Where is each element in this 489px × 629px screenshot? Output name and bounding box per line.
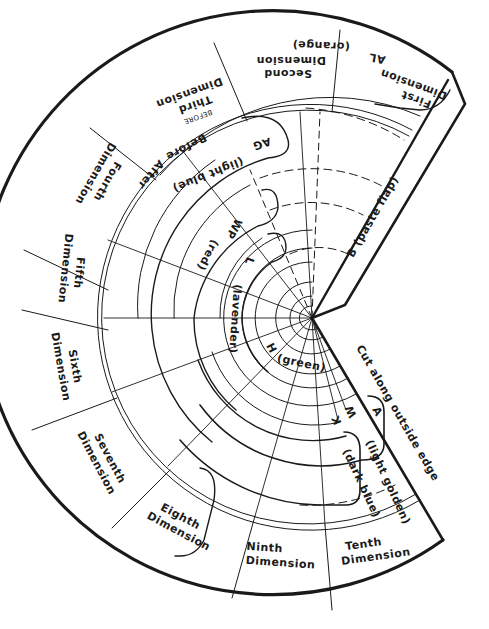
lane-w-code: W [342, 403, 359, 420]
lane-l-color: (lavender) [226, 284, 244, 354]
lane-k-code: K [329, 413, 345, 427]
lane-al-color: (orange) [292, 38, 350, 53]
lane-al-code: AL [368, 51, 387, 67]
lane-l-code: L [242, 255, 257, 267]
lane-wp-color: (red) [194, 237, 221, 273]
cone-template-diagram: First Dimension AL (orange) Second Dimen… [0, 0, 489, 629]
second-dimension-line2: Dimension [256, 54, 326, 67]
ninth-dimension-line1: Ninth [246, 540, 283, 556]
lane-ag-color: (light blue) [171, 154, 246, 194]
lane-ag-code: AG [251, 135, 273, 153]
edge-labels: B (paste flap) Cut along outside edge A [344, 174, 442, 483]
lane-wp-code: WP [223, 217, 244, 242]
a-mark-label: A [369, 405, 385, 419]
before-label: Before [164, 131, 209, 163]
ninth-dimension-line2: Dimension [245, 554, 316, 572]
paste-flap-label: B (paste flap) [344, 174, 401, 260]
second-dimension-line1: Second [264, 67, 312, 80]
lane-labels: AG (light blue) WP (red) L (lavender) H … [171, 135, 414, 527]
after-label: After [135, 157, 167, 191]
fifth-dimension-line2: Dimension [55, 233, 75, 304]
